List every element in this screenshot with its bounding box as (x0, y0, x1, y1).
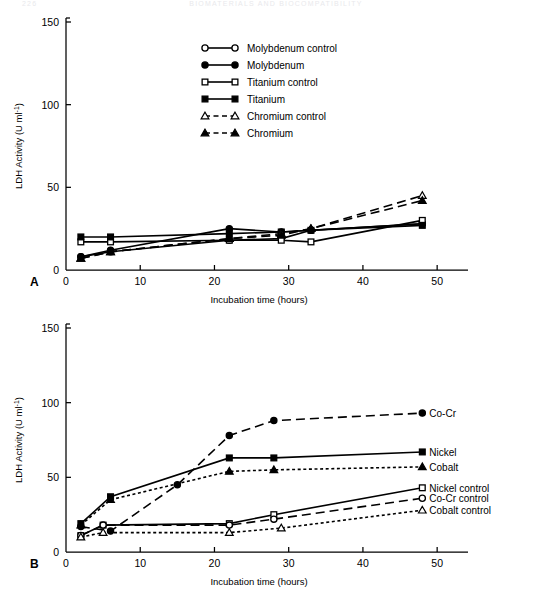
series-line (81, 225, 422, 237)
data-point (419, 485, 425, 491)
x-tick-label: 50 (431, 557, 443, 569)
panel-letter: A (30, 275, 39, 289)
series-nickel-control (78, 485, 425, 539)
series-line (81, 220, 422, 241)
legend-marker (202, 96, 208, 102)
series-line (81, 452, 422, 524)
y-tick-label: 0 (53, 264, 59, 276)
y-axis-title: LDH Activity (U ml-1) (13, 103, 25, 189)
series-cobalt-control (77, 506, 426, 540)
data-point (271, 455, 277, 461)
legend-label: Chromium (247, 128, 293, 139)
data-point (78, 234, 84, 240)
series-label: Co-Cr control (429, 493, 488, 504)
data-point (271, 516, 277, 522)
x-axis-title: Incubation time (hours) (210, 294, 307, 305)
x-tick-label: 0 (63, 557, 69, 569)
data-point (418, 506, 426, 513)
series-titanium-control (78, 218, 425, 245)
series-label: Nickel (429, 447, 456, 458)
x-tick-label: 50 (431, 275, 443, 287)
x-tick-label: 30 (283, 275, 295, 287)
axes: 05010015001020304050 (41, 16, 468, 287)
legend-marker (232, 45, 238, 51)
data-point (271, 417, 277, 423)
y-tick-label: 150 (41, 16, 59, 28)
series-label: Co-Cr (429, 408, 456, 419)
data-point (226, 455, 232, 461)
y-axis-title: LDH Activity (U ml-1) (13, 397, 25, 483)
x-tick-label: 30 (283, 557, 295, 569)
legend-label: Molybdenum (247, 60, 304, 71)
y-tick-label: 150 (41, 322, 59, 334)
panel-b: 05010015001020304050LDH Activity (U ml-1… (0, 312, 552, 596)
series-line (81, 510, 422, 537)
x-tick-label: 40 (357, 275, 369, 287)
data-point (108, 234, 114, 240)
data-point (226, 432, 232, 438)
data-point (174, 482, 180, 488)
legend-item: Chromium (201, 128, 293, 139)
data-point (419, 495, 425, 501)
x-tick-label: 10 (134, 557, 146, 569)
data-point (419, 410, 425, 416)
legend-item: Titanium (202, 94, 285, 105)
data-point (419, 449, 425, 455)
series-co-cr (78, 410, 426, 534)
legend-marker (202, 62, 208, 68)
legend-marker (202, 79, 208, 85)
running-head-title: BIOMATERIALS AND BIOCOMPATIBILITY (189, 0, 362, 7)
x-tick-label: 10 (134, 275, 146, 287)
legend-marker (232, 62, 238, 68)
legend-marker (232, 79, 238, 85)
series-nickel (78, 449, 425, 526)
panel-a: 05010015001020304050LDH Activity (U ml-1… (0, 8, 552, 308)
legend-label: Molybdenum control (247, 43, 337, 54)
data-point (100, 522, 106, 528)
y-tick-label: 0 (53, 546, 59, 558)
legend-marker (202, 45, 208, 51)
series-label: Nickel control (429, 483, 489, 494)
panel-b-chart: 05010015001020304050LDH Activity (U ml-1… (0, 312, 552, 596)
series-label-group: Co-CrNickelCobaltNickel controlCo-Cr con… (429, 408, 491, 516)
running-head: 226 BIOMATERIALS AND BIOCOMPATIBILITY (0, 0, 552, 8)
legend-item: Chromium control (201, 111, 326, 122)
legend-marker (232, 96, 238, 102)
legend-label: Titanium (247, 94, 285, 105)
data-point (308, 239, 314, 245)
legend: Molybdenum controlMolybdenumTitanium con… (201, 43, 337, 139)
x-tick-label: 20 (209, 275, 221, 287)
series-cobalt (77, 463, 426, 528)
page-folio: 226 (22, 0, 37, 8)
panel-a-chart: 05010015001020304050LDH Activity (U ml-1… (0, 8, 552, 308)
legend-item: Molybdenum control (202, 43, 337, 54)
y-tick-label: 50 (47, 181, 59, 193)
legend-item: Molybdenum (202, 60, 304, 71)
y-tick-label: 50 (47, 471, 59, 483)
series-line (81, 488, 422, 536)
data-point (226, 522, 232, 528)
y-tick-label: 100 (41, 397, 59, 409)
x-tick-label: 40 (357, 557, 369, 569)
legend-label: Chromium control (247, 111, 326, 122)
legend-label: Titanium control (247, 77, 318, 88)
y-tick-label: 100 (41, 99, 59, 111)
data-point (418, 463, 426, 470)
series-line (81, 413, 422, 531)
x-axis-title: Incubation time (hours) (210, 576, 307, 587)
series-label: Cobalt (429, 462, 458, 473)
x-tick-label: 0 (63, 275, 69, 287)
legend-item: Titanium control (202, 77, 318, 88)
x-tick-label: 20 (209, 557, 221, 569)
panel-letter: B (30, 557, 39, 571)
series-label: Cobalt control (429, 505, 491, 516)
data-point (419, 222, 425, 228)
